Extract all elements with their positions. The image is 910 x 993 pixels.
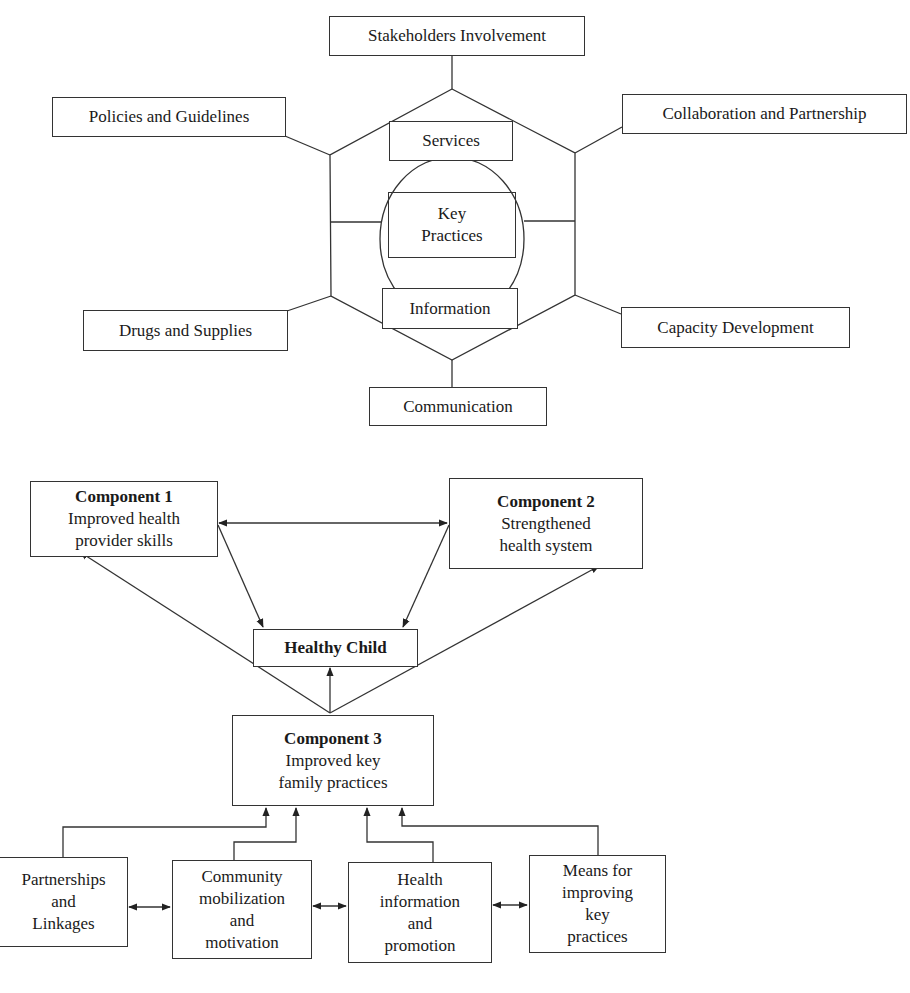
node-community-mobilization: Community mobilization and motivation bbox=[172, 860, 312, 959]
input-line-1: Partnerships bbox=[21, 869, 105, 891]
node-label: Collaboration and Partnership bbox=[663, 103, 867, 125]
node-label: Communication bbox=[403, 396, 513, 418]
node-collaboration-and-partnership: Collaboration and Partnership bbox=[622, 94, 907, 134]
input-line-4: promotion bbox=[385, 935, 456, 957]
node-label: Capacity Development bbox=[657, 317, 813, 339]
node-services: Services bbox=[389, 121, 513, 161]
component-desc-line-1: Improved key bbox=[286, 750, 381, 772]
input-line-1: Means for bbox=[563, 860, 632, 882]
node-label: Drugs and Supplies bbox=[119, 320, 252, 342]
node-means-for-improving: Means for improving key practices bbox=[529, 855, 666, 953]
input-line-1: Health bbox=[397, 869, 442, 891]
node-communication: Communication bbox=[369, 387, 547, 426]
node-label: Stakeholders Involvement bbox=[368, 25, 546, 47]
node-label: Services bbox=[422, 130, 480, 152]
node-healthy-child: Healthy Child bbox=[253, 629, 418, 667]
component-desc-line-2: provider skills bbox=[75, 530, 173, 552]
input-line-2: information bbox=[380, 891, 460, 913]
component-title: Component 1 bbox=[75, 486, 173, 508]
component-title: Component 3 bbox=[284, 728, 382, 750]
component-desc-line-2: health system bbox=[499, 535, 592, 557]
node-partnerships-and-linkages: Partnerships and Linkages bbox=[0, 857, 128, 947]
input-line-3: Linkages bbox=[32, 913, 94, 935]
input-line-2: and bbox=[51, 891, 76, 913]
input-line-3: key bbox=[585, 904, 610, 926]
node-key-practices: Key Practices bbox=[388, 192, 516, 258]
node-drugs-and-supplies: Drugs and Supplies bbox=[83, 310, 288, 351]
node-component-2: Component 2 Strengthened health system bbox=[449, 478, 643, 569]
component-desc-line-2: family practices bbox=[278, 772, 387, 794]
input-line-3: and bbox=[408, 913, 433, 935]
node-capacity-development: Capacity Development bbox=[621, 307, 850, 348]
goal-label: Healthy Child bbox=[284, 637, 387, 659]
input-line-2: mobilization bbox=[199, 888, 285, 910]
component-desc-line-1: Strengthened bbox=[501, 513, 591, 535]
input-line-1: Community bbox=[201, 866, 282, 888]
node-component-1: Component 1 Improved health provider ski… bbox=[30, 481, 218, 557]
input-line-4: motivation bbox=[205, 932, 279, 954]
component-desc-line-1: Improved health bbox=[68, 508, 180, 530]
node-label: Information bbox=[409, 298, 490, 320]
node-health-information-promotion: Health information and promotion bbox=[348, 862, 492, 963]
input-line-4: practices bbox=[567, 926, 627, 948]
node-policies-and-guidelines: Policies and Guidelines bbox=[52, 97, 286, 137]
node-label-line-1: Key bbox=[438, 203, 466, 225]
input-line-2: improving bbox=[562, 882, 633, 904]
node-information: Information bbox=[382, 288, 518, 329]
input-line-3: and bbox=[230, 910, 255, 932]
node-label-line-2: Practices bbox=[421, 225, 482, 247]
component-title: Component 2 bbox=[497, 491, 595, 513]
node-label: Policies and Guidelines bbox=[89, 106, 250, 128]
node-stakeholders-involvement: Stakeholders Involvement bbox=[329, 16, 585, 56]
node-component-3: Component 3 Improved key family practice… bbox=[232, 715, 434, 806]
